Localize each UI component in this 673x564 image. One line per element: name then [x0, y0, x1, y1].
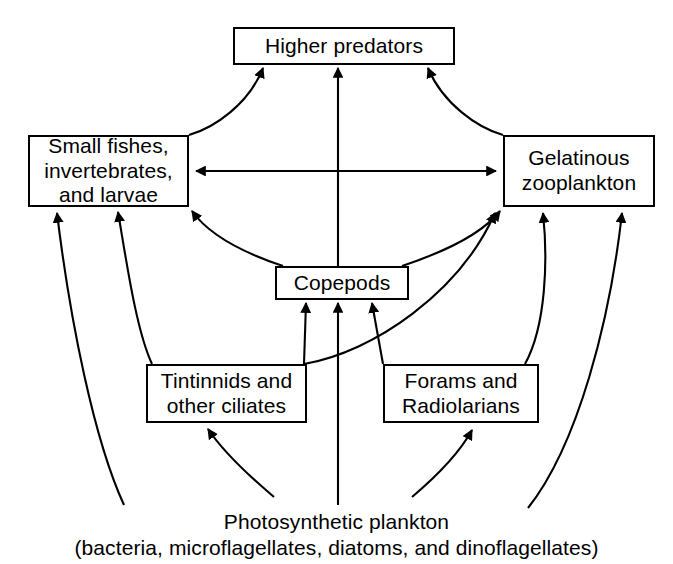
- node-higher-predators[interactable]: Higher predators: [233, 27, 455, 65]
- label-photosynthetic-plankton: Photosynthetic plankton (bacteria, micro…: [16, 509, 657, 562]
- edge-tintinnids-to-copepods: [304, 303, 306, 364]
- node-small-fishes-line-1: Small fishes,: [48, 134, 168, 159]
- edge-copepods-to-small-fishes: [192, 211, 283, 266]
- edge-tintinnids-to-small-fishes: [118, 212, 152, 364]
- edge-plankton-to-gelatinous: [528, 213, 622, 508]
- edge-plankton-to-tintinnids: [208, 429, 274, 497]
- node-gelatinous-zooplankton-line-2: zooplankton: [522, 171, 636, 196]
- label-photosynthetic-plankton-line-1: Photosynthetic plankton: [16, 509, 657, 535]
- node-small-fishes-line-2: invertebrates,: [44, 159, 173, 184]
- food-web-diagram: Higher predators Small fishes, invertebr…: [0, 0, 673, 564]
- edge-forams-to-gelatinous: [525, 213, 545, 364]
- edge-copepods-to-gelatinous: [402, 211, 500, 266]
- node-forams-line-2: Radiolarians: [402, 394, 520, 419]
- node-tintinnids-line-1: Tintinnids and: [161, 369, 292, 394]
- edge-plankton-to-small-fishes: [57, 213, 124, 505]
- node-forams[interactable]: Forams and Radiolarians: [383, 364, 539, 423]
- node-gelatinous-zooplankton-line-1: Gelatinous: [528, 146, 629, 171]
- node-small-fishes-line-3: and larvae: [59, 183, 158, 208]
- node-tintinnids[interactable]: Tintinnids and other ciliates: [146, 364, 307, 423]
- edge-small-fishes-to-higher-predators: [189, 68, 263, 135]
- node-forams-line-1: Forams and: [404, 369, 517, 394]
- node-gelatinous-zooplankton[interactable]: Gelatinous zooplankton: [503, 135, 655, 207]
- label-photosynthetic-plankton-line-2: (bacteria, microflagellates, diatoms, an…: [16, 535, 657, 561]
- node-copepods-line-1: Copepods: [294, 271, 391, 296]
- edge-plankton-to-forams: [412, 430, 472, 497]
- node-copepods[interactable]: Copepods: [275, 266, 409, 300]
- node-tintinnids-line-2: other ciliates: [167, 394, 286, 419]
- node-higher-predators-line-1: Higher predators: [265, 34, 423, 59]
- edge-gelatinous-to-higher-predators: [428, 68, 503, 135]
- node-small-fishes[interactable]: Small fishes, invertebrates, and larvae: [28, 135, 189, 207]
